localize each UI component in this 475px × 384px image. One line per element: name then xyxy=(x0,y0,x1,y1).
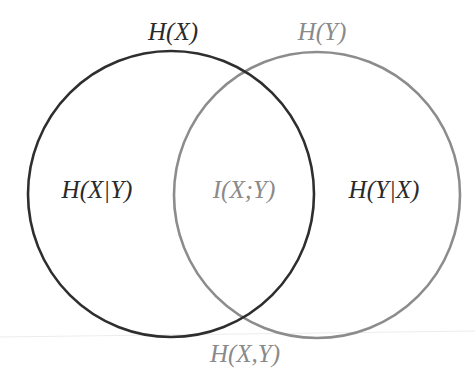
region-y-only-label: H(Y|X) xyxy=(348,176,420,204)
faint-baseline xyxy=(0,331,475,337)
set-x-label: H(X) xyxy=(147,18,198,46)
union-label: H(X,Y) xyxy=(209,340,280,368)
venn-diagram: H(X) H(Y) H(X|Y) I(X;Y) H(Y|X) H(X,Y) xyxy=(0,0,475,384)
region-intersection-label: I(X;Y) xyxy=(212,176,275,204)
region-x-only-label: H(X|Y) xyxy=(61,176,133,204)
set-y-label: H(Y) xyxy=(297,18,347,46)
